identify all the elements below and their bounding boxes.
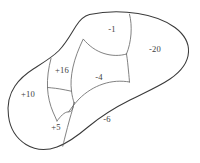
diagram-canvas: +10 +16 -1 -4 -20 +5 -6 [0, 0, 200, 163]
region-label-plus-5: +5 [51, 122, 61, 132]
region-label-plus-16: +16 [55, 65, 70, 75]
region-label-minus-1: -1 [108, 24, 116, 34]
region-partition-diagram: +10 +16 -1 -4 -20 +5 -6 [0, 0, 200, 163]
region-label-minus-6: -6 [103, 114, 111, 124]
region-label-plus-10: +10 [21, 89, 35, 99]
region-label-minus-4: -4 [95, 72, 103, 82]
region-label-minus-20: -20 [149, 44, 161, 54]
